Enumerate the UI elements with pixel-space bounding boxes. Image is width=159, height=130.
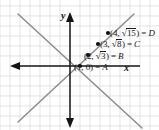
y-axis-label: y bbox=[61, 11, 65, 21]
label-C-radical: √8 bbox=[112, 39, 122, 49]
label-A-name: A bbox=[102, 62, 107, 72]
x-axis-label: x bbox=[124, 63, 129, 73]
label-A-equals: = bbox=[93, 62, 102, 72]
label-C-name: C bbox=[134, 39, 140, 49]
label-D-name: D bbox=[148, 28, 154, 38]
point-label-D: (4, √15) = D bbox=[110, 28, 155, 38]
coordinate-plane-figure: (4, √15) = D (3, √8) = C (2, √3) = B (1,… bbox=[0, 0, 159, 130]
label-D-radicand: 15 bbox=[126, 28, 136, 38]
label-B-radical: √3 bbox=[96, 51, 106, 61]
point-label-B: (2, √3) = B bbox=[84, 51, 123, 61]
point-label-A: (1, 0) = A bbox=[74, 63, 108, 72]
label-B-name: B bbox=[118, 51, 123, 61]
label-D-radical: √15 bbox=[122, 28, 137, 38]
label-C-equals: = bbox=[125, 39, 134, 49]
label-B-equals: = bbox=[109, 51, 118, 61]
point-label-C: (3, √8) = C bbox=[100, 39, 140, 49]
